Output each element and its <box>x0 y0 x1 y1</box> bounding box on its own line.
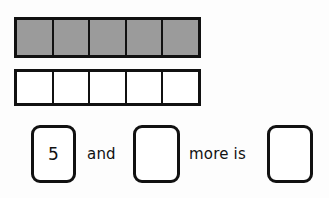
strip-cell <box>163 20 198 55</box>
number-sentence: 5 and more is <box>0 122 329 188</box>
strip-cell <box>163 72 198 103</box>
filled-strip <box>14 17 201 58</box>
second-number-box[interactable] <box>133 125 180 183</box>
result-number-box[interactable] <box>267 125 313 183</box>
strip-cell <box>17 20 54 55</box>
strip-cell <box>54 20 91 55</box>
empty-strip <box>14 69 201 106</box>
strip-cell <box>127 72 164 103</box>
connector-more-is: more is <box>189 122 246 186</box>
first-number-box[interactable]: 5 <box>31 125 76 183</box>
strip-cell <box>17 72 54 103</box>
strip-cell <box>90 20 127 55</box>
strip-cell <box>54 72 91 103</box>
connector-and: and <box>87 122 116 186</box>
counting-worksheet: 5 and more is <box>0 0 329 198</box>
strip-cell <box>90 72 127 103</box>
strip-cell <box>127 20 164 55</box>
first-number-value: 5 <box>48 146 59 163</box>
